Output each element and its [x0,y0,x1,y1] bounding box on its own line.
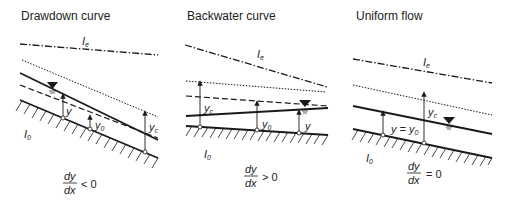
water-level-symbol [299,100,311,113]
panel-drawdown: Drawdown curve Ie [16,9,159,196]
energy-line [185,45,327,87]
bed-slope-label: I0 [204,148,211,161]
equation: dy dx = 0 [407,160,442,186]
energy-label: Ie [423,56,430,69]
depth-label-y0: y0 [261,118,272,131]
svg-text:= 0: = 0 [426,168,442,180]
bed-slope-label: I0 [366,152,373,165]
depth-label-y: y [304,120,312,132]
panel-backwater: Backwater curve Ie yc y0 [185,9,328,189]
energy-label: Ie [257,48,264,61]
critical-depth-line [186,81,326,92]
diagram-canvas: Drawdown curve Ie [0,0,509,201]
energy-label: Ie [82,35,89,48]
depth-label-yc: yc [203,102,214,115]
svg-text:dy: dy [245,163,258,175]
bed-hatching [16,101,158,168]
panel-uniform-flow: Uniform flow Ie y = y0 yc I0 [352,9,492,186]
svg-text:dy: dy [64,170,77,182]
panel-title: Backwater curve [187,9,276,23]
depth-label-yc: yc [427,106,438,119]
svg-text:dx: dx [64,184,76,196]
svg-text:< 0: < 0 [81,178,97,190]
panel-title: Uniform flow [356,9,423,23]
panel-title: Drawdown curve [21,9,111,23]
svg-text:dx: dx [408,174,420,186]
energy-line [20,44,158,55]
equation: dy dx > 0 [244,163,278,189]
svg-text:dy: dy [408,160,421,172]
depth-label-y-equals-y0: y = y0 [390,123,419,136]
bed-slope-label: I0 [24,128,31,141]
equation: dy dx < 0 [63,170,97,196]
depth-label-y: y [65,105,73,117]
depth-label-yc: yc [148,121,159,134]
svg-text:> 0: > 0 [262,171,278,183]
svg-text:dx: dx [245,177,257,189]
depth-label-y0: y0 [94,119,105,132]
bed-hatching [352,130,492,166]
water-level-symbol [443,117,455,129]
